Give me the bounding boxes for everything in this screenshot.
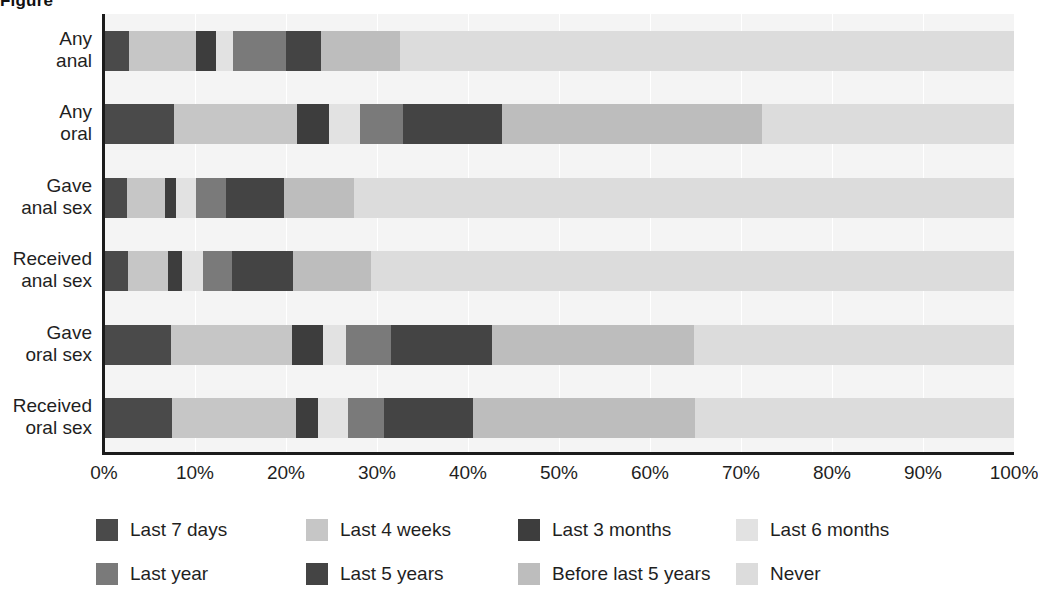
bar-row bbox=[104, 31, 1014, 71]
bar-segment[interactable] bbox=[196, 31, 216, 71]
bar-segment[interactable] bbox=[129, 31, 195, 71]
x-axis-tick-label: 60% bbox=[631, 462, 669, 484]
y-axis-label: Anyanal bbox=[0, 28, 92, 72]
y-axis-label: Gaveanal sex bbox=[0, 175, 92, 219]
bar-segment[interactable] bbox=[165, 178, 176, 218]
bar-segment[interactable] bbox=[104, 251, 128, 291]
bar-segment[interactable] bbox=[172, 398, 296, 438]
bar-segment[interactable] bbox=[694, 325, 1014, 365]
legend-swatch-icon bbox=[518, 563, 540, 585]
bar-segment[interactable] bbox=[695, 398, 1014, 438]
gridline bbox=[650, 14, 651, 455]
legend-label: Last 3 months bbox=[552, 519, 671, 541]
bar-segment[interactable] bbox=[176, 178, 196, 218]
bar-segment[interactable] bbox=[182, 251, 203, 291]
stacked-bar[interactable] bbox=[104, 251, 1014, 291]
bar-segment[interactable] bbox=[284, 178, 354, 218]
bar-segment[interactable] bbox=[321, 31, 399, 71]
legend-item[interactable]: Last year bbox=[96, 563, 306, 585]
bar-segment[interactable] bbox=[296, 398, 318, 438]
bar-segment[interactable] bbox=[384, 398, 472, 438]
bar-segment[interactable] bbox=[128, 251, 168, 291]
gridline bbox=[195, 14, 196, 455]
bar-segment[interactable] bbox=[346, 325, 391, 365]
chart-legend: Last 7 daysLast 4 weeksLast 3 monthsLast… bbox=[96, 508, 996, 596]
bar-row bbox=[104, 325, 1014, 365]
y-axis-label-line2: oral bbox=[0, 123, 92, 145]
bar-segment[interactable] bbox=[196, 178, 226, 218]
y-axis-label: Receivedoral sex bbox=[0, 395, 92, 439]
y-axis-label-line1: Any bbox=[0, 101, 92, 123]
bar-segment[interactable] bbox=[104, 104, 174, 144]
bar-segment[interactable] bbox=[171, 325, 292, 365]
y-axis-label-line2: anal bbox=[0, 50, 92, 72]
bar-segment[interactable] bbox=[391, 325, 492, 365]
legend-label: Last year bbox=[130, 563, 208, 585]
bar-segment[interactable] bbox=[104, 178, 127, 218]
bar-segment[interactable] bbox=[104, 31, 129, 71]
y-axis-label-line2: anal sex bbox=[0, 270, 92, 292]
y-axis-label-line1: Gave bbox=[0, 322, 92, 344]
bar-segment[interactable] bbox=[318, 398, 348, 438]
bar-segment[interactable] bbox=[233, 31, 286, 71]
legend-item[interactable]: Before last 5 years bbox=[518, 563, 736, 585]
stacked-bar[interactable] bbox=[104, 178, 1014, 218]
stacked-bar[interactable] bbox=[104, 104, 1014, 144]
legend-row-1: Last 7 daysLast 4 weeksLast 3 monthsLast… bbox=[96, 508, 996, 552]
stacked-bar[interactable] bbox=[104, 325, 1014, 365]
y-axis-label-line2: anal sex bbox=[0, 197, 92, 219]
bar-segment[interactable] bbox=[168, 251, 183, 291]
legend-swatch-icon bbox=[96, 519, 118, 541]
bar-segment[interactable] bbox=[403, 104, 501, 144]
bar-segment[interactable] bbox=[104, 398, 172, 438]
bar-segment[interactable] bbox=[292, 325, 323, 365]
legend-label: Never bbox=[770, 563, 821, 585]
gridline bbox=[377, 14, 378, 455]
bar-segment[interactable] bbox=[371, 251, 1013, 291]
bar-segment[interactable] bbox=[286, 31, 321, 71]
bar-segment[interactable] bbox=[502, 104, 762, 144]
x-axis-tick-label: 70% bbox=[722, 462, 760, 484]
legend-swatch-icon bbox=[736, 519, 758, 541]
bar-segment[interactable] bbox=[354, 178, 1014, 218]
y-axis-label-line2: oral sex bbox=[0, 417, 92, 439]
stacked-bar[interactable] bbox=[104, 31, 1014, 71]
x-axis-tick-label: 40% bbox=[449, 462, 487, 484]
bar-segment[interactable] bbox=[348, 398, 384, 438]
legend-item[interactable]: Last 5 years bbox=[306, 563, 518, 585]
bar-segment[interactable] bbox=[226, 178, 284, 218]
bar-segment[interactable] bbox=[232, 251, 293, 291]
bar-segment[interactable] bbox=[323, 325, 346, 365]
legend-item[interactable]: Last 7 days bbox=[96, 519, 306, 541]
bar-segment[interactable] bbox=[203, 251, 232, 291]
y-axis-label-line1: Received bbox=[0, 248, 92, 270]
gridline bbox=[286, 14, 287, 455]
bar-segment[interactable] bbox=[216, 31, 233, 71]
stacked-bar[interactable] bbox=[104, 398, 1014, 438]
x-axis-tick-label: 80% bbox=[813, 462, 851, 484]
bar-segment[interactable] bbox=[473, 398, 696, 438]
bar-segment[interactable] bbox=[762, 104, 1014, 144]
legend-item[interactable]: Last 4 weeks bbox=[306, 519, 518, 541]
gridline bbox=[832, 14, 833, 455]
legend-item[interactable]: Never bbox=[736, 563, 936, 585]
bar-segment[interactable] bbox=[400, 31, 1014, 71]
bar-segment[interactable] bbox=[127, 178, 165, 218]
legend-swatch-icon bbox=[306, 563, 328, 585]
x-axis-tick-label: 50% bbox=[540, 462, 578, 484]
legend-label: Last 4 weeks bbox=[340, 519, 451, 541]
bar-segment[interactable] bbox=[360, 104, 404, 144]
bar-segment[interactable] bbox=[174, 104, 297, 144]
legend-item[interactable]: Last 3 months bbox=[518, 519, 736, 541]
bar-segment[interactable] bbox=[297, 104, 329, 144]
bar-segment[interactable] bbox=[329, 104, 360, 144]
bar-segment[interactable] bbox=[293, 251, 371, 291]
y-axis-label-line1: Received bbox=[0, 395, 92, 417]
y-axis-label: Gaveoral sex bbox=[0, 322, 92, 366]
legend-item[interactable]: Last 6 months bbox=[736, 519, 936, 541]
bar-segment[interactable] bbox=[492, 325, 694, 365]
y-axis-label-line2: oral sex bbox=[0, 344, 92, 366]
bar-segment[interactable] bbox=[104, 325, 171, 365]
gridline bbox=[468, 14, 469, 455]
